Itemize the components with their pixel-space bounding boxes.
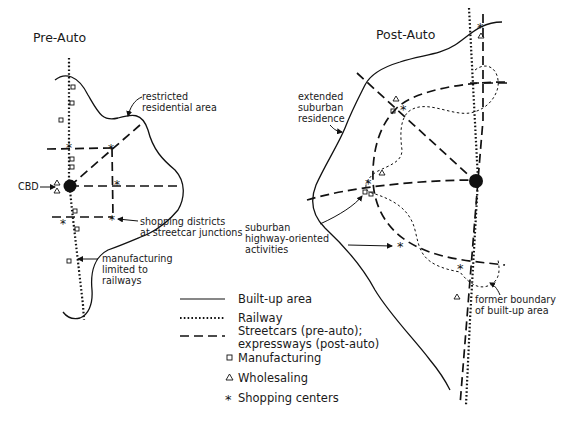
pre-auto-title: Pre-Auto — [33, 30, 86, 45]
triangle-icon — [226, 374, 233, 380]
urban-form-diagram: Pre-Auto * * — [0, 0, 561, 422]
legend-wholesaling: Wholesaling — [238, 371, 308, 385]
legend-railway: Railway — [238, 311, 283, 325]
pre-auto-streetcar-vertical — [112, 148, 113, 218]
manufacturing-label-2: limited to — [102, 264, 148, 275]
pre-auto-cbd-marker — [64, 180, 77, 193]
shopping-label-2: at streetcar junctions — [140, 227, 242, 238]
pre-auto-streetcar-north — [47, 148, 112, 149]
post-auto-title: Post-Auto — [376, 27, 435, 42]
svg-text:*: * — [397, 239, 404, 254]
legend-expressways: expressways (post-auto) — [238, 337, 379, 351]
manufacturing-label-1: manufacturing — [102, 253, 173, 264]
legend-built-up: Built-up area — [238, 292, 312, 306]
legend: Built-up area Railway Streetcars (pre-au… — [180, 292, 379, 407]
restricted-label-2: residential area — [142, 102, 217, 113]
svg-text:*: * — [365, 176, 372, 191]
post-auto-cbd-marker — [469, 174, 483, 188]
svg-text:*: * — [114, 178, 120, 192]
extended-label-1: extended — [298, 91, 343, 102]
svg-text:*: * — [477, 20, 484, 35]
svg-text:*: * — [66, 141, 72, 155]
shopping-label-1: shopping districts — [140, 216, 225, 227]
post-auto-expressway-diagonal — [357, 73, 475, 181]
post-auto-expressway-horizontal-west — [307, 180, 475, 200]
former-label-2: of built-up area — [475, 305, 549, 316]
svg-text:*: * — [109, 213, 115, 227]
svg-text:*: * — [457, 261, 464, 276]
post-auto-railway — [466, 8, 478, 405]
pre-auto-panel: Pre-Auto * * — [18, 30, 242, 320]
manufacturing-label-3: railways — [102, 275, 142, 286]
legend-shopping: Shopping centers — [238, 391, 339, 405]
former-label-1: former boundary — [475, 294, 556, 305]
post-auto-shopping: * * * * * — [365, 20, 484, 276]
suburban-label-3: activities — [245, 244, 288, 255]
suburban-label-1: suburban — [245, 222, 290, 233]
extended-label-2: suburban — [298, 102, 343, 113]
legend-streetcars: Streetcars (pre-auto); — [238, 324, 362, 338]
legend-manufacturing: Manufacturing — [238, 351, 321, 365]
restricted-label-1: restricted — [142, 91, 188, 102]
svg-text:*: * — [108, 142, 114, 156]
asterisk-icon: * — [225, 392, 232, 407]
square-icon — [227, 355, 232, 360]
suburban-label-2: highway-oriented — [245, 233, 329, 244]
post-auto-wholesaling — [379, 33, 484, 299]
svg-text:*: * — [400, 102, 407, 117]
svg-text:*: * — [60, 217, 66, 231]
cbd-label: CBD — [18, 181, 39, 192]
extended-label-3: residence — [298, 113, 345, 124]
pre-auto-streetcar-diagonal — [70, 125, 140, 186]
